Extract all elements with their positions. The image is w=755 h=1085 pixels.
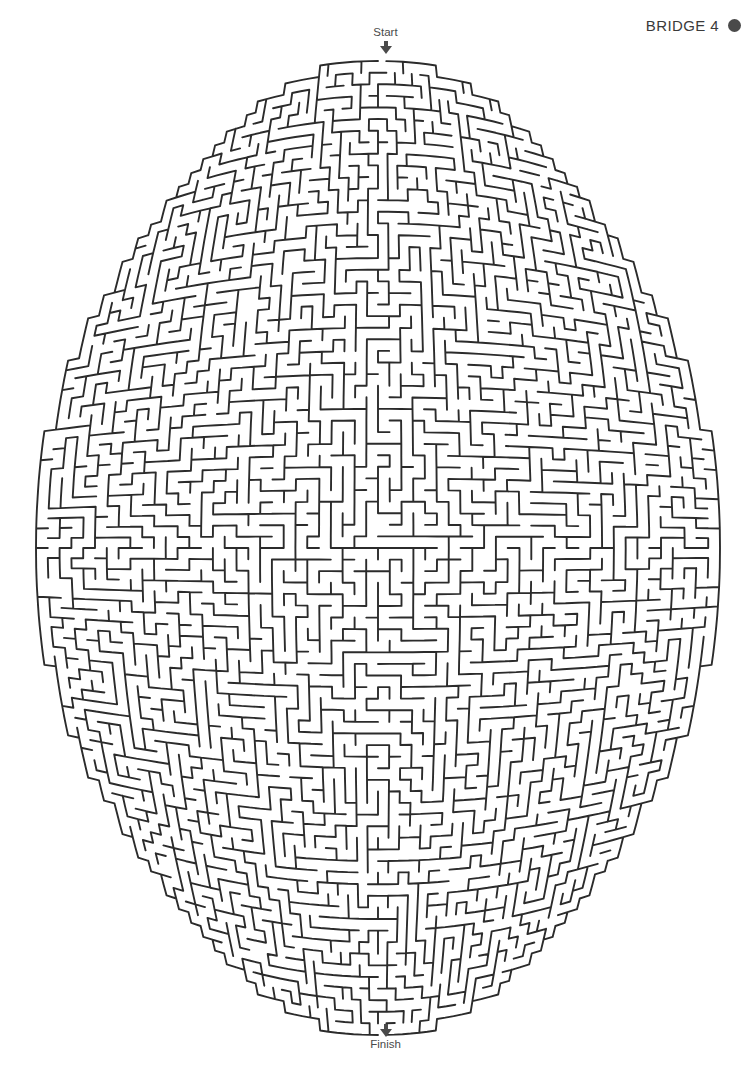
arrow-down-icon	[380, 1024, 392, 1037]
maze-page: BRIDGE 4 Start Finish	[0, 0, 755, 1085]
start-marker: Start	[8, 26, 755, 54]
maze-walls-path	[36, 61, 720, 1035]
finish-marker: Finish	[8, 1024, 755, 1051]
finish-label: Finish	[370, 1038, 401, 1051]
maze-graphic	[0, 0, 755, 1085]
start-label: Start	[373, 26, 397, 39]
maze-wall-group	[36, 61, 720, 1035]
arrow-down-icon	[380, 41, 392, 54]
arrow-head	[380, 1029, 392, 1037]
arrow-head	[380, 46, 392, 54]
